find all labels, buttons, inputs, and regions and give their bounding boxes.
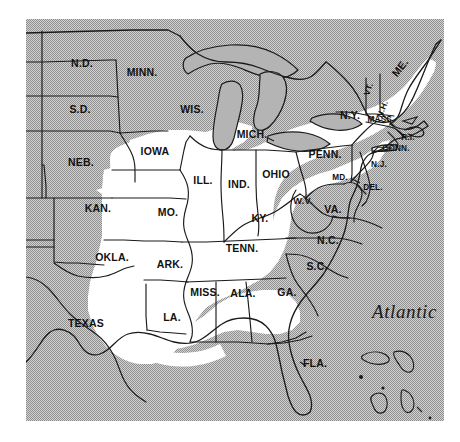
state-label-ark: ARK.	[157, 258, 183, 270]
state-label-wv: W.V.	[293, 196, 312, 206]
state-label-ky: KY.	[252, 212, 269, 224]
state-label-wis: WIS.	[180, 103, 204, 115]
state-label-minn: MINN.	[127, 66, 158, 78]
state-label-sc: S.C.	[306, 260, 327, 272]
state-label-ind: IND.	[228, 178, 250, 190]
state-label-ala: ALA.	[230, 287, 255, 299]
map-figure: N.D.S.D.NEB.KAN.OKLA.TEXASMINN.IOWAMO.AR…	[0, 0, 460, 442]
state-label-texas: TEXAS	[68, 317, 104, 329]
state-label-nd: N.D.	[71, 57, 93, 69]
state-label-ohio: OHIO	[262, 168, 290, 180]
state-label-mass: MASS.	[368, 115, 395, 124]
state-label-penn: PENN.	[308, 148, 341, 160]
state-label-ri: R.I.	[401, 133, 415, 142]
state-label-sd: S.D.	[69, 103, 90, 115]
state-label-la: LA.	[163, 311, 181, 323]
state-label-mo: MO.	[158, 206, 178, 218]
state-label-kan: KAN.	[85, 202, 111, 214]
state-label-tenn: TENN.	[226, 242, 259, 254]
state-label-okla: OKLA.	[95, 251, 129, 263]
state-label-fla: FLA.	[303, 357, 327, 369]
state-label-nj: N.J.	[371, 160, 387, 169]
state-label-conn: CONN.	[382, 144, 409, 153]
atlantic-ocean-label: Atlantic	[370, 301, 437, 322]
state-label-miss: MISS.	[190, 286, 220, 298]
state-label-md: MD.	[332, 173, 348, 182]
state-label-ny: N.Y.	[340, 109, 360, 121]
state-label-ga: GA.	[277, 286, 296, 298]
us-eastern-map: N.D.S.D.NEB.KAN.OKLA.TEXASMINN.IOWAMO.AR…	[0, 0, 460, 442]
state-label-nc: N.C.	[317, 234, 339, 246]
state-label-va: VA.	[324, 203, 341, 215]
state-label-iowa: IOWA	[141, 145, 170, 157]
state-label-neb: NEB.	[68, 156, 94, 168]
state-label-ill: ILL.	[193, 174, 212, 186]
state-label-mich: MICH.	[237, 128, 268, 140]
state-label-del: DEL.	[363, 183, 382, 192]
